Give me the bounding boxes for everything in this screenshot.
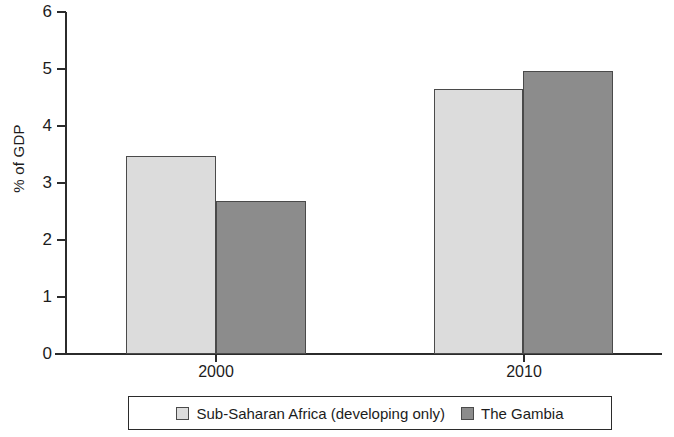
plot-area: % of GDP 0 1 2 3 4 5 6 2000 2010 — [0, 0, 674, 437]
y-tick-2 — [57, 239, 66, 241]
y-tick-label-5: 5 — [24, 60, 52, 77]
x-tick-label-2000: 2000 — [156, 363, 276, 381]
chart-legend: Sub-Saharan Africa (developing only) The… — [128, 396, 612, 430]
bar-ssa-2010 — [434, 89, 523, 354]
legend-item-gambia: The Gambia — [461, 405, 564, 422]
legend-swatch-icon-gambia — [461, 407, 474, 420]
x-tick-label-2010: 2010 — [464, 363, 584, 381]
chart-figure: % of GDP 0 1 2 3 4 5 6 2000 2010 — [0, 0, 674, 437]
bar-gambia-2010 — [523, 71, 613, 354]
y-tick-3 — [57, 182, 66, 184]
bar-ssa-2000 — [126, 156, 216, 354]
y-tick-label-6: 6 — [24, 3, 52, 20]
x-tick-2000 — [215, 355, 217, 362]
legend-label-ssa: Sub-Saharan Africa (developing only) — [196, 405, 444, 422]
y-tick-label-2: 2 — [24, 231, 52, 248]
legend-swatch-icon-ssa — [176, 407, 189, 420]
y-tick-label-1: 1 — [24, 288, 52, 305]
legend-item-ssa: Sub-Saharan Africa (developing only) — [176, 405, 444, 422]
y-tick-0 — [57, 353, 66, 355]
y-tick-label-4: 4 — [24, 117, 52, 134]
y-tick-label-3: 3 — [24, 174, 52, 191]
legend-label-gambia: The Gambia — [481, 405, 564, 422]
y-tick-4 — [57, 125, 66, 127]
y-tick-5 — [57, 68, 66, 70]
y-tick-6 — [57, 11, 66, 13]
y-tick-1 — [57, 296, 66, 298]
x-tick-2010 — [523, 355, 525, 362]
bar-gambia-2000 — [216, 201, 306, 354]
y-tick-label-0: 0 — [24, 345, 52, 362]
